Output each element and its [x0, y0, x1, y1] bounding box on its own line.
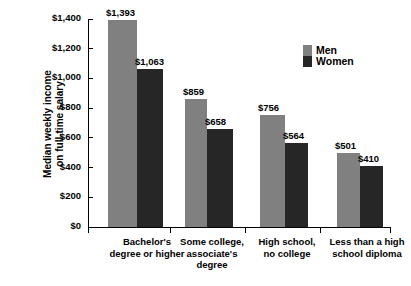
- bar-value-label: $1,063: [135, 56, 164, 67]
- y-axis-tick-mark: [88, 19, 93, 20]
- bar-chart: Median weekly income on full-time salary…: [0, 0, 411, 286]
- y-axis-tick-label: $800: [60, 101, 81, 112]
- y-axis-tick-mark: [88, 108, 93, 109]
- bar-men: [185, 99, 207, 227]
- bar-value-label: $1,393: [106, 7, 135, 18]
- y-axis-tick-label: $0: [70, 220, 81, 231]
- y-axis-tick-label: $600: [60, 131, 81, 142]
- bar-men: [108, 20, 137, 227]
- y-axis-tick-mark: [88, 48, 93, 49]
- bar-value-label: $658: [205, 116, 226, 127]
- y-axis-tick-label: $400: [60, 161, 81, 172]
- y-axis-title-container: Median weekly income on full-time salary: [0, 0, 46, 240]
- x-axis-tick-mark: [170, 227, 171, 233]
- bar-value-label: $501: [335, 140, 356, 151]
- y-axis-tick-label: $1,000: [52, 71, 81, 82]
- y-axis-tick-mark: [88, 78, 93, 79]
- bar-men: [337, 153, 360, 227]
- plot-area: $0$200$400$600$800$1,000$1,200$1,400$1,3…: [88, 19, 390, 227]
- bar-women: [360, 166, 383, 227]
- legend-swatch-women-icon: [303, 56, 312, 67]
- legend-label-women: Women: [316, 55, 354, 67]
- legend-swatch-men-icon: [303, 45, 312, 56]
- x-axis-tick-mark: [245, 227, 246, 233]
- y-axis-tick-label: $1,400: [52, 12, 81, 23]
- bar-women: [285, 143, 308, 227]
- x-axis-line: [88, 227, 391, 228]
- x-axis-tick-mark: [390, 227, 391, 233]
- y-axis-tick-label: $200: [60, 190, 81, 201]
- bar-women: [137, 69, 163, 227]
- bar-value-label: $756: [258, 102, 279, 113]
- bar-women: [207, 129, 233, 227]
- y-axis-tick-label: $1,200: [52, 42, 81, 53]
- x-axis-category-label: Some college, associate's degree: [172, 236, 252, 271]
- bar-value-label: $859: [183, 86, 204, 97]
- x-axis-category-label: Less than a high school diploma: [324, 236, 410, 259]
- bar-men: [260, 115, 285, 227]
- y-axis-tick-mark: [88, 137, 93, 138]
- bar-value-label: $410: [358, 153, 379, 164]
- x-axis-tick-mark: [88, 227, 89, 233]
- y-axis-tick-mark: [88, 167, 93, 168]
- y-axis-tick-mark: [88, 197, 93, 198]
- x-axis-category-label: High school, no college: [248, 236, 326, 259]
- bar-value-label: $564: [283, 130, 304, 141]
- x-axis-tick-mark: [320, 227, 321, 233]
